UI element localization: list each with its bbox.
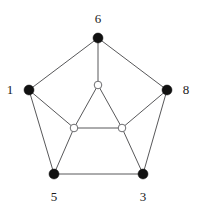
- graph-node-n8: [162, 85, 172, 95]
- graph-node-n5: [49, 169, 59, 179]
- graph-node-i_left: [70, 124, 78, 132]
- graph-node-n3: [138, 169, 148, 179]
- graph-edge-n8-i_right: [122, 90, 167, 128]
- node-label-n6: 6: [95, 12, 102, 25]
- graph-edge-n5-i_left: [54, 128, 74, 174]
- graph-edge-i_top-i_left: [74, 85, 98, 128]
- node-label-n5: 5: [51, 190, 58, 203]
- graph-node-i_top: [94, 81, 102, 89]
- graph-edge-i_top-i_right: [98, 85, 122, 128]
- graph-figure: 61853: [0, 0, 202, 214]
- graph-node-n6: [93, 33, 103, 43]
- node-label-n3: 3: [140, 190, 147, 203]
- node-label-n1: 1: [7, 83, 14, 96]
- graph-edge-n6-n8: [98, 38, 167, 90]
- edges-group: [29, 38, 167, 174]
- graph-edge-n6-n1: [29, 38, 98, 90]
- graph-canvas: [0, 0, 202, 214]
- graph-edge-n8-n3: [143, 90, 167, 174]
- graph-node-n1: [24, 85, 34, 95]
- graph-edge-n1-n5: [29, 90, 54, 174]
- graph-edge-n3-i_right: [122, 128, 143, 174]
- node-label-n8: 8: [183, 83, 190, 96]
- graph-node-i_right: [118, 124, 126, 132]
- graph-edge-n1-i_left: [29, 90, 74, 128]
